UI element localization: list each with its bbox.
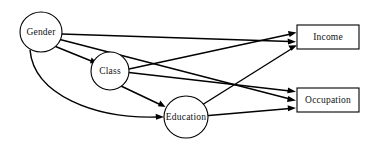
edge-class-occupation bbox=[129, 73, 296, 94]
edge-education-occupation-arrowhead bbox=[288, 105, 296, 111]
node-education-ellipse bbox=[164, 96, 208, 138]
edge-class-education-line bbox=[121, 86, 160, 105]
node-class[interactable]: Class bbox=[91, 52, 129, 90]
node-occupation-rect bbox=[297, 88, 359, 112]
edge-gender-occupation-arrowhead bbox=[287, 96, 296, 102]
node-gender-ellipse bbox=[20, 12, 62, 52]
edge-gender-income-line bbox=[62, 34, 291, 42]
edge-gender-income-arrowhead bbox=[288, 39, 296, 45]
node-class-ellipse bbox=[91, 52, 129, 90]
edge-education-occupation-line bbox=[203, 109, 290, 117]
node-education[interactable]: Education bbox=[164, 96, 208, 138]
diagram-canvas: Gender Class Education Income Occupation bbox=[0, 0, 374, 145]
node-occupation[interactable]: Occupation bbox=[297, 88, 359, 112]
edge-education-occupation bbox=[203, 105, 296, 116]
edge-gender-education-arrowhead bbox=[156, 114, 164, 120]
edge-class-occupation-line bbox=[129, 73, 290, 92]
edge-gender-income bbox=[62, 34, 297, 45]
edge-class-income-arrowhead bbox=[288, 31, 297, 37]
edge-class-occupation-arrowhead bbox=[287, 87, 296, 93]
edge-education-income bbox=[202, 45, 297, 105]
edge-layer bbox=[30, 31, 297, 120]
node-income[interactable]: Income bbox=[297, 25, 359, 49]
edge-gender-class bbox=[56, 47, 98, 64]
node-income-rect bbox=[297, 25, 359, 49]
path-diagram: Gender Class Education Income Occupation bbox=[0, 0, 374, 145]
node-layer: Gender Class Education Income Occupation bbox=[20, 12, 359, 138]
edge-class-education-arrowhead bbox=[158, 101, 166, 107]
node-gender[interactable]: Gender bbox=[20, 12, 62, 52]
edge-gender-class-line bbox=[56, 47, 93, 62]
edge-class-education bbox=[121, 86, 166, 107]
